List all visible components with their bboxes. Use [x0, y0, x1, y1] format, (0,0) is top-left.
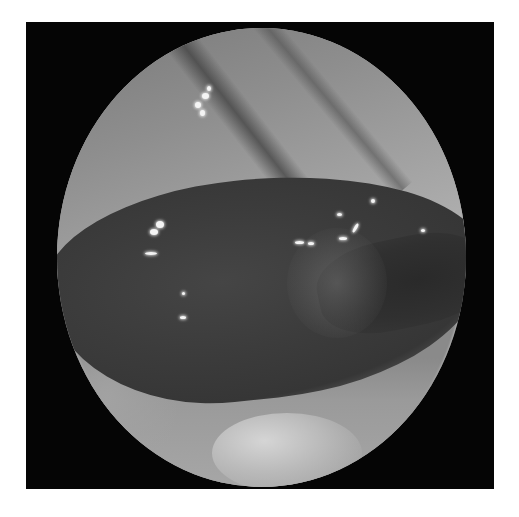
highlight — [295, 241, 304, 244]
highlight — [180, 316, 186, 319]
highlight — [207, 86, 211, 91]
highlight — [145, 252, 157, 255]
highlight — [202, 93, 209, 99]
highlight — [182, 292, 185, 295]
highlight — [195, 102, 201, 108]
highlight — [339, 237, 347, 240]
bright-reflection — [212, 413, 362, 487]
highlight — [156, 221, 164, 228]
image-frame — [26, 22, 494, 489]
highlight — [421, 229, 425, 232]
highlight — [371, 199, 375, 203]
lesion-lighter-center — [287, 228, 387, 338]
highlight — [150, 229, 158, 235]
endoscope-view — [57, 28, 466, 487]
highlight — [200, 110, 205, 116]
highlight — [308, 242, 314, 245]
highlight — [337, 213, 342, 216]
